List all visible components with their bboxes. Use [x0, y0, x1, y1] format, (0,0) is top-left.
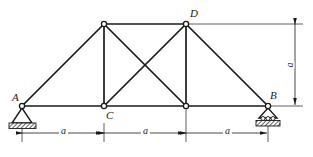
dimension-label-span-3: a	[223, 126, 232, 136]
dimension-label-span-2: a	[141, 126, 150, 136]
member-A-F	[22, 24, 104, 106]
truss-figure: A C B D a a a a	[0, 0, 313, 157]
joint-B	[265, 103, 270, 108]
joint-A	[19, 103, 24, 108]
node-label-C: C	[106, 110, 113, 121]
member-D-B	[186, 24, 268, 106]
node-label-B: B	[270, 90, 277, 101]
dimension-label-span-1: a	[59, 126, 68, 136]
truss-drawing	[0, 0, 313, 157]
joint-E	[183, 103, 188, 108]
joint-F	[101, 21, 106, 26]
truss-members	[22, 24, 268, 106]
pin-support-A	[9, 108, 36, 129]
roller-support-B	[256, 108, 280, 126]
joint-C	[101, 103, 106, 108]
joint-D	[183, 21, 188, 26]
node-label-D: D	[190, 8, 198, 19]
node-label-A: A	[12, 92, 19, 103]
dimension-label-height: a	[285, 62, 295, 69]
